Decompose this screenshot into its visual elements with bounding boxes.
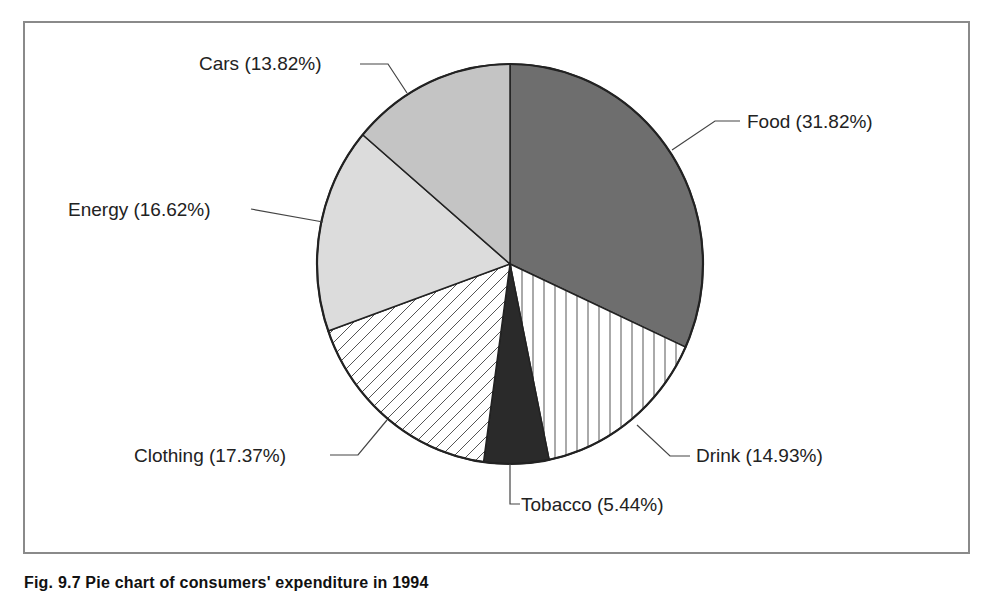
figure-caption: Fig. 9.7 Pie chart of consumers' expendi… <box>24 574 429 592</box>
leader-cars <box>360 64 407 93</box>
leader-energy <box>251 209 323 222</box>
label-cars: Cars (13.82%) <box>199 53 322 74</box>
label-food: Food (31.82%) <box>747 111 873 132</box>
pie-slices <box>317 64 703 464</box>
label-energy: Energy (16.62%) <box>68 199 211 220</box>
label-clothing: Clothing (17.37%) <box>134 445 286 466</box>
leader-clothing <box>330 420 387 455</box>
leader-food <box>672 121 740 150</box>
leader-drink <box>637 425 690 456</box>
leader-tobacco <box>510 464 520 504</box>
label-tobacco: Tobacco (5.44%) <box>521 494 664 515</box>
label-drink: Drink (14.93%) <box>696 445 823 466</box>
